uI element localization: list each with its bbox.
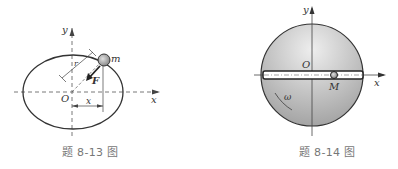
y-axis-label: y — [61, 24, 68, 35]
mass-label: m — [111, 53, 120, 64]
origin-label: O — [61, 93, 69, 104]
origin-label: O — [302, 59, 310, 70]
figure-8-14: y x O M ω 题 8-14 图 — [200, 0, 398, 169]
x-axis-label: x — [151, 94, 157, 105]
point-m-label: M — [328, 81, 340, 92]
x-axis-label: x — [374, 77, 380, 88]
omega-label: ω — [284, 92, 292, 102]
x-dimension-label: x — [86, 96, 91, 106]
figure-caption: 题 8-14 图 — [299, 143, 355, 159]
radius-label: r — [74, 59, 79, 68]
force-label: F — [91, 75, 100, 86]
figure-caption: 题 8-13 图 — [62, 143, 118, 159]
figure-8-13: y x O m F r x 题 8-13 图 — [0, 0, 200, 169]
y-axis-label: y — [302, 4, 309, 15]
